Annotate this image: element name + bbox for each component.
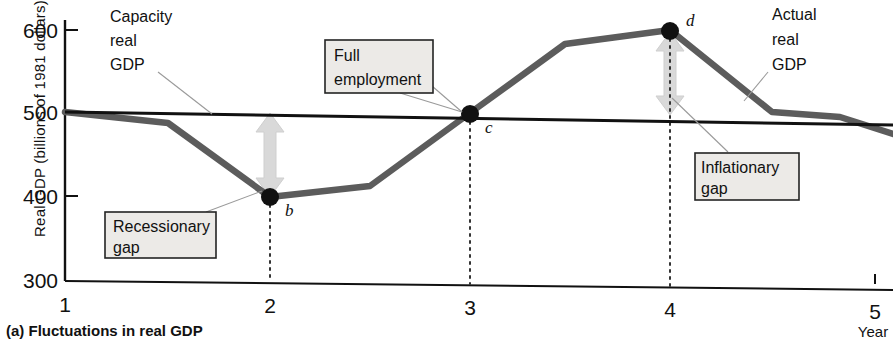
y-tick-400: 400: [23, 185, 58, 208]
point-label-b: b: [285, 201, 294, 220]
capacity-real-gdp-line: [65, 112, 893, 125]
actual-annotation-line-1: Actual: [772, 6, 816, 23]
chart-canvas: 600 500 400 300 1 2 3 4 5 Year: [0, 0, 893, 340]
capacity-annotation-line-2: real: [110, 32, 137, 49]
recessionary-gap-line-2: gap: [113, 239, 140, 256]
full-employment-line-2: employment: [334, 71, 422, 88]
x-tick-1: 1: [59, 293, 71, 316]
capacity-real-gdp-annotation: Capacity real GDP: [110, 8, 212, 114]
full-employment-callout: Full employment: [325, 40, 462, 112]
recessionary-gap-line-1: Recessionary: [113, 218, 210, 235]
y-tick-labels: 600 500 400 300: [23, 19, 58, 292]
capacity-annotation-line-3: GDP: [110, 56, 145, 73]
x-tick-2: 2: [264, 294, 276, 317]
figure-container: Real GDP (billions of 1981 dollars) 600 …: [0, 0, 893, 340]
marker-d: [661, 22, 679, 40]
capacity-annotation-line-1: Capacity: [110, 8, 172, 25]
y-tick-300: 300: [23, 269, 58, 292]
x-tick-5: 5: [869, 300, 881, 323]
actual-annotation-line-2: real: [772, 31, 799, 48]
marker-b: [261, 188, 279, 206]
x-tick-3: 3: [464, 296, 476, 319]
figure-caption: (a) Fluctuations in real GDP: [6, 322, 203, 339]
recessionary-gap-callout: Recessionary gap: [105, 191, 262, 258]
point-label-c: c: [485, 118, 493, 137]
inflationary-gap-line-2: gap: [701, 180, 728, 197]
recessionary-gap-arrow: [256, 113, 284, 197]
x-axis-title: Year: [858, 323, 888, 340]
x-tick-4: 4: [664, 298, 676, 321]
y-tick-500: 500: [23, 101, 58, 124]
point-label-d: d: [686, 11, 695, 30]
inflationary-gap-line-1: Inflationary: [701, 159, 779, 176]
actual-annotation-line-3: GDP: [772, 56, 807, 73]
y-tick-600: 600: [23, 19, 58, 42]
marker-c: [461, 105, 479, 123]
actual-real-gdp-annotation: Actual real GDP: [744, 6, 816, 101]
full-employment-line-1: Full: [334, 47, 360, 64]
